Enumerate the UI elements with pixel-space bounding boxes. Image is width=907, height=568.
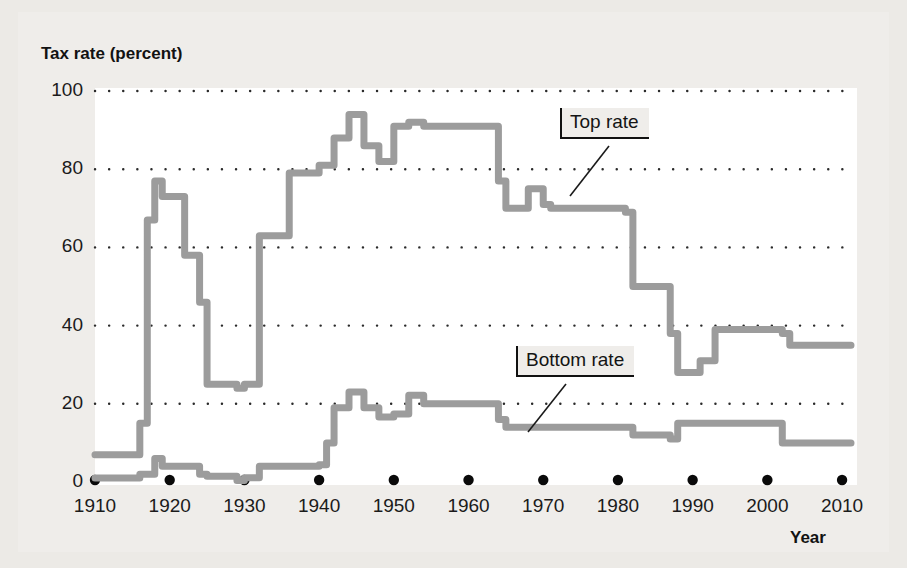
x-tick-dot — [687, 475, 697, 485]
annotation-top-rate: Top rate — [560, 108, 649, 139]
y-tick-label: 80 — [23, 157, 83, 179]
x-tick-label: 1930 — [208, 495, 280, 517]
x-tick-dot — [389, 475, 399, 485]
x-tick-label: 2000 — [731, 495, 803, 517]
leader-line-top-rate — [570, 146, 609, 196]
x-tick-label: 1990 — [657, 495, 729, 517]
x-tick-label: 1950 — [358, 495, 430, 517]
x-tick-label: 1920 — [134, 495, 206, 517]
figure-root: Tax rate (percent) Year Top rate Bottom … — [0, 0, 907, 568]
y-tick-label: 40 — [23, 314, 83, 336]
x-tick-label: 1940 — [283, 495, 355, 517]
x-tick-dot — [165, 475, 175, 485]
x-tick-dot — [613, 475, 623, 485]
x-tick-dot — [463, 475, 473, 485]
x-tick-label: 1970 — [507, 495, 579, 517]
x-tick-label: 1960 — [433, 495, 505, 517]
x-tick-dot — [762, 475, 772, 485]
x-tick-dot — [837, 475, 847, 485]
chart-svg — [0, 0, 907, 568]
series-line-bottom-rate — [95, 392, 851, 480]
y-tick-label: 20 — [23, 392, 83, 414]
x-tick-label: 1910 — [59, 495, 131, 517]
x-tick-label: 2010 — [806, 495, 878, 517]
y-tick-label: 60 — [23, 235, 83, 257]
annotation-bottom-rate: Bottom rate — [516, 346, 634, 377]
x-tick-label: 1980 — [582, 495, 654, 517]
x-tick-dot — [538, 475, 548, 485]
y-tick-label: 0 — [23, 470, 83, 492]
x-tick-dot — [314, 475, 324, 485]
y-tick-label: 100 — [23, 79, 83, 101]
